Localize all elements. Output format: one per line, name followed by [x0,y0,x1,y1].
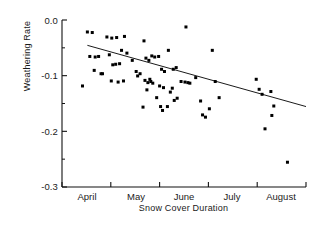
data-point [173,99,176,102]
data-point [86,30,89,33]
data-point [261,93,264,96]
data-point [255,78,258,81]
data-point [171,87,174,90]
data-point [131,59,134,62]
data-point [204,116,207,119]
data-point [199,99,202,102]
data-point [264,127,267,130]
data-point [218,96,221,99]
data-point [97,55,100,58]
data-point [118,62,121,65]
data-point [272,105,275,108]
data-point [157,55,160,58]
data-point [172,68,175,71]
data-point [162,86,165,89]
data-point [110,79,113,82]
data-point [88,55,91,58]
trend-line [87,45,306,106]
data-point [194,76,197,79]
data-point [270,114,273,117]
data-point [143,79,146,82]
data-point [135,70,138,73]
data-point [184,25,187,28]
data-point [145,88,148,91]
data-point [211,49,214,52]
data-point [81,84,84,87]
data-point [142,106,145,109]
plot-canvas [0,0,330,226]
data-point [150,54,153,57]
data-point [214,80,217,83]
data-point [155,96,158,99]
data-point [108,53,111,56]
data-point [147,59,150,62]
data-point [114,63,117,66]
data-point [175,66,178,69]
data-point [208,107,211,110]
data-point [110,37,113,40]
data-point [188,82,191,85]
data-point [166,105,169,108]
data-point [117,81,120,84]
data-point [105,35,108,38]
data-point [180,80,183,83]
data-point [159,105,162,108]
data-point [146,81,149,84]
data-point [258,88,261,91]
data-point [176,97,179,100]
data-point [151,82,154,85]
data-point [160,68,163,71]
data-point [136,74,139,77]
data-point [120,49,123,52]
data-point [144,57,147,60]
data-point [201,113,204,116]
data-points [81,25,289,163]
data-point [101,72,104,75]
data-point [153,56,156,59]
data-point [125,52,128,55]
data-point [115,36,118,39]
data-point [158,84,161,87]
data-point [286,161,289,164]
data-point [91,31,94,34]
data-point [169,91,172,94]
data-point [167,49,170,52]
data-point [161,109,164,112]
weathering-rate-scatter-figure: Weathering Rate 0.0 -0.1 -0.2 -0.3 April… [0,0,330,226]
data-point [93,69,96,72]
data-point [269,90,272,93]
data-point [142,39,145,42]
regression-line [87,45,306,106]
axis-lines [62,20,306,187]
data-point [122,79,125,82]
data-point [111,63,114,66]
data-point [163,70,166,73]
data-point [94,56,97,59]
x-axis-ticks [62,182,306,187]
data-point [123,35,126,38]
y-axis-ticks [62,20,67,187]
data-point [183,81,186,84]
